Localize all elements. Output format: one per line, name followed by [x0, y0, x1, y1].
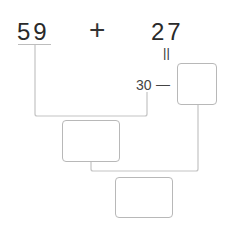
intermediate-sum-box[interactable] — [62, 120, 120, 162]
decomposition-box[interactable] — [177, 63, 217, 105]
decomposition-dash: — — [156, 77, 170, 91]
left-operand: 59 — [17, 20, 50, 44]
connector-59-to-30 — [35, 44, 147, 116]
right-operand: 27 — [151, 20, 184, 44]
plus-operator: + — [89, 16, 105, 44]
decomposition-part: 30 — [136, 78, 152, 92]
vertical-equals: || — [163, 46, 170, 59]
final-answer-box[interactable] — [115, 177, 173, 218]
left-operand-underline — [18, 44, 51, 45]
